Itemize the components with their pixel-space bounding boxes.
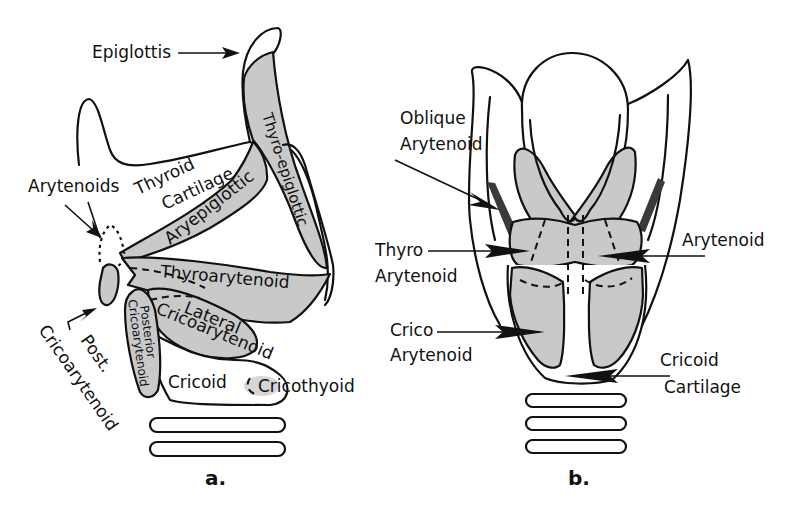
arytenoid-cartilage-outline bbox=[99, 225, 124, 268]
label-oblique: Oblique bbox=[400, 108, 466, 128]
label-cricothyoid: Cricothyoid bbox=[258, 376, 355, 396]
label-crico: Crico bbox=[390, 320, 433, 340]
arytenoid-body bbox=[99, 265, 118, 306]
larynx-diagram: Epiglottis Arytenoids Thyroid Cartilage … bbox=[0, 0, 792, 505]
tracheal-ring-1 bbox=[150, 418, 285, 432]
tracheal-ring-b1 bbox=[526, 394, 626, 407]
label-thyro: Thyro bbox=[374, 240, 423, 260]
label-arytenoid: Arytenoid bbox=[682, 230, 765, 250]
label-cricoid: Cricoid bbox=[168, 372, 227, 392]
tracheal-ring-b2 bbox=[526, 417, 626, 430]
posterior-cricoarytenoid-left bbox=[510, 267, 564, 368]
oblique-arytenoid-right bbox=[637, 178, 665, 232]
label-thyro-arytenoid: Arytenoid bbox=[375, 266, 458, 286]
panel-a-label: a. bbox=[205, 466, 226, 490]
aryepiglottic-muscle bbox=[120, 142, 267, 262]
panel-b-posterior-view: Oblique Arytenoid Thyro Arytenoid Crico … bbox=[374, 53, 765, 490]
thyroid-right-inner bbox=[648, 95, 668, 240]
oblique-leader bbox=[395, 160, 480, 200]
label-cricoid: Cricoid bbox=[660, 350, 719, 370]
transverse-arytenoid-muscle bbox=[510, 219, 642, 268]
label-post-cricoarytenoid: Cricoarytenoid bbox=[35, 321, 123, 435]
posterior-cricoarytenoid-right bbox=[589, 267, 643, 368]
thyroid-left-inner bbox=[487, 97, 495, 240]
label-crico-arytenoid: Arytenoid bbox=[390, 345, 473, 365]
panel-a-lateral-view: Epiglottis Arytenoids Thyroid Cartilage … bbox=[28, 28, 355, 490]
label-epiglottis: Epiglottis bbox=[92, 42, 171, 62]
tracheal-ring-2 bbox=[150, 442, 285, 456]
post-cricoarytenoid-leader bbox=[68, 312, 88, 330]
label-arytenoids: Arytenoids bbox=[28, 176, 119, 196]
label-cricoid-cartilage: Cartilage bbox=[664, 377, 741, 397]
tracheal-ring-b3 bbox=[526, 440, 626, 453]
label-oblique-arytenoid: Arytenoid bbox=[400, 134, 483, 154]
panel-b-label: b. bbox=[568, 466, 590, 490]
